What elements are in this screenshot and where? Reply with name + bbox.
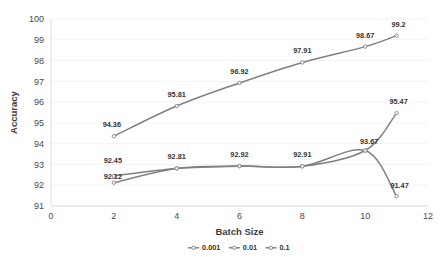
data-point-marker bbox=[301, 61, 304, 64]
x-tick-label: 2 bbox=[111, 211, 116, 221]
data-point-marker bbox=[175, 104, 178, 107]
data-label-0.1-8: 92.91 bbox=[293, 150, 311, 159]
accuracy-vs-batch-size-chart: 919293949596979899100 024681012 Accuracy… bbox=[0, 0, 445, 257]
data-label-0.001-11: 99.2 bbox=[391, 20, 405, 29]
x-axis-tick-labels: 024681012 bbox=[48, 211, 433, 221]
series-paths-group bbox=[114, 36, 397, 197]
data-label-0.01-2: 92.45 bbox=[104, 156, 122, 165]
y-tick-label: 96 bbox=[34, 97, 44, 107]
y-tick-label: 97 bbox=[34, 77, 44, 87]
data-point-marker bbox=[363, 149, 366, 152]
x-tick-label: 12 bbox=[423, 211, 433, 221]
data-point-marker bbox=[301, 165, 304, 168]
x-tick-label: 8 bbox=[300, 211, 305, 221]
legend-marker-dot-0.01 bbox=[233, 246, 236, 249]
data-point-marker bbox=[363, 45, 366, 48]
data-label-0.1-2: 92.12 bbox=[104, 172, 122, 181]
chart-legend: 0.0010.010.1 bbox=[188, 243, 290, 252]
data-point-marker bbox=[175, 167, 178, 170]
legend-marker-dot-0.1 bbox=[269, 246, 272, 249]
data-label-0.01-11: 91.47 bbox=[390, 181, 408, 190]
data-point-marker bbox=[395, 195, 398, 198]
legend-label-0.1: 0.1 bbox=[279, 243, 289, 252]
data-label-0.1-4: 92.81 bbox=[168, 152, 186, 161]
y-tick-label: 92 bbox=[34, 180, 44, 190]
data-label-0.001-6: 96.92 bbox=[230, 67, 248, 76]
data-point-marker bbox=[395, 111, 398, 114]
chart-canvas: 919293949596979899100 024681012 Accuracy… bbox=[0, 0, 445, 257]
legend-label-0.001: 0.001 bbox=[202, 243, 220, 252]
data-label-0.01-10: 93.67 bbox=[360, 137, 378, 146]
y-tick-label: 98 bbox=[34, 56, 44, 66]
y-axis-tick-labels: 919293949596979899100 bbox=[29, 14, 44, 211]
y-tick-label: 94 bbox=[34, 139, 44, 149]
data-label-0.001-4: 95.81 bbox=[168, 90, 186, 99]
data-point-marker bbox=[112, 181, 115, 184]
legend-marker-dot-0.001 bbox=[192, 246, 195, 249]
x-tick-label: 10 bbox=[360, 211, 370, 221]
data-point-marker bbox=[238, 164, 241, 167]
data-point-marker bbox=[238, 81, 241, 84]
data-label-0.001-8: 97.91 bbox=[293, 46, 311, 55]
data-label-0.001-2: 94.36 bbox=[103, 120, 121, 129]
x-axis-title: Batch Size bbox=[215, 226, 263, 237]
data-label-0.001-10: 98.67 bbox=[356, 31, 374, 40]
y-tick-label: 93 bbox=[34, 160, 44, 170]
data-label-0.1-6: 92.92 bbox=[230, 150, 248, 159]
x-tick-label: 6 bbox=[237, 211, 242, 221]
series-line-0.1 bbox=[114, 113, 397, 183]
legend-label-0.01: 0.01 bbox=[243, 243, 257, 252]
data-point-marker bbox=[112, 134, 115, 137]
x-tick-label: 4 bbox=[174, 211, 179, 221]
y-tick-label: 91 bbox=[34, 201, 44, 211]
y-tick-label: 99 bbox=[34, 35, 44, 45]
data-point-marker bbox=[395, 34, 398, 37]
series-line-0.001 bbox=[114, 36, 397, 137]
x-tick-label: 0 bbox=[48, 211, 53, 221]
y-tick-label: 95 bbox=[34, 118, 44, 128]
data-label-0.1-11: 95.47 bbox=[389, 97, 407, 106]
y-axis-title: Accuracy bbox=[8, 90, 19, 133]
y-tick-label: 100 bbox=[29, 14, 44, 24]
